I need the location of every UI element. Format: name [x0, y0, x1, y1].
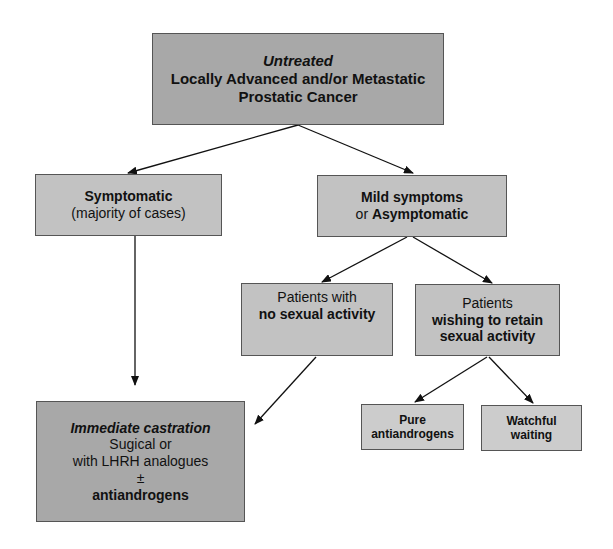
node-untreated-cancer: Untreated Locally Advanced and/or Metast…	[152, 33, 444, 125]
node-mild-asymptomatic: Mild symptoms or Asymptomatic	[317, 175, 507, 237]
mild-line2-prefix: or	[356, 206, 372, 222]
mild-line2-bold: Asymptomatic	[372, 206, 468, 222]
castration-plusminus: ±	[137, 470, 145, 487]
arrow-root-to-mild	[298, 125, 413, 173]
mild-line1: Mild symptoms	[361, 189, 463, 206]
arrow-no-sexual-to-castration	[255, 357, 316, 424]
watchful-line1: Watchful	[506, 414, 556, 428]
castration-title: Immediate castration	[70, 420, 210, 437]
arrow-mild-to-no-sexual	[322, 237, 407, 282]
node-retain-sexual-activity: Patients wishing to retain sexual activi…	[415, 284, 560, 356]
castration-line5: antiandrogens	[92, 487, 188, 504]
castration-line2: Sugical or	[109, 436, 171, 453]
arrow-retain-to-watchful	[489, 357, 533, 403]
mild-line2: or Asymptomatic	[356, 206, 469, 223]
node-immediate-castration: Immediate castration Sugical or with LHR…	[36, 401, 245, 522]
no-sexual-line2: no sexual activity	[259, 306, 376, 323]
symptomatic-subtitle: (majority of cases)	[71, 205, 185, 222]
node-symptomatic: Symptomatic (majority of cases)	[35, 174, 222, 236]
root-line-prostatic: Prostatic Cancer	[238, 88, 357, 106]
arrow-root-to-symptomatic	[128, 125, 298, 173]
arrow-mild-to-retain	[413, 237, 492, 283]
watchful-line2: waiting	[511, 428, 552, 442]
symptomatic-title: Symptomatic	[85, 188, 173, 205]
retain-line1: Patients	[462, 295, 513, 312]
node-pure-antiandrogens: Pure antiandrogens	[361, 404, 464, 450]
no-sexual-line1: Patients with	[277, 289, 356, 306]
castration-line3: with LHRH analogues	[73, 453, 208, 470]
node-no-sexual-activity: Patients with no sexual activity	[241, 283, 393, 356]
arrow-retain-to-pure	[415, 357, 487, 402]
retain-line3: sexual activity	[440, 328, 536, 345]
root-line-advanced: Locally Advanced and/or Metastatic	[171, 70, 426, 88]
pure-line2: antiandrogens	[371, 427, 454, 441]
node-watchful-waiting: Watchful waiting	[481, 405, 582, 451]
pure-line1: Pure	[399, 413, 426, 427]
root-line-untreated: Untreated	[263, 52, 333, 70]
retain-line2: wishing to retain	[432, 312, 543, 329]
